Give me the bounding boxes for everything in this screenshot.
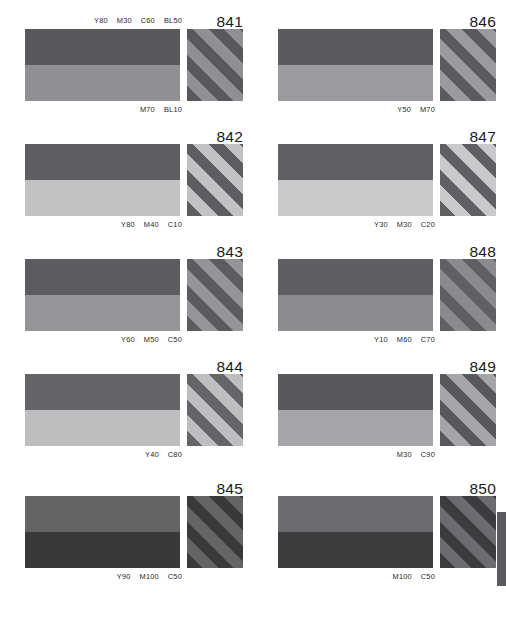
spec-token: BL10 bbox=[164, 105, 182, 114]
swatch-spec-bottom: Y30M30C20 bbox=[253, 220, 435, 229]
color-swatch-843: 843Y60M50C50 bbox=[0, 243, 253, 358]
spec-token: Y10 bbox=[374, 335, 388, 344]
spec-token: Y80 bbox=[94, 16, 108, 25]
swatch-number-label: 842 bbox=[217, 128, 243, 145]
spec-token: M50 bbox=[144, 335, 159, 344]
spec-token: C20 bbox=[421, 220, 435, 229]
spec-token: M100 bbox=[140, 572, 159, 581]
swatch-band-top bbox=[278, 29, 433, 65]
spec-token: Y60 bbox=[121, 335, 135, 344]
spec-token: Y40 bbox=[145, 450, 159, 459]
swatch-spec-bottom: M70BL10 bbox=[0, 105, 182, 114]
swatch-stripe-patch bbox=[440, 374, 496, 446]
swatch-stripe-patch bbox=[440, 496, 496, 568]
color-swatch-841: 841Y80M30C60BL50M70BL10 bbox=[0, 13, 253, 128]
swatch-band-bottom bbox=[278, 410, 433, 446]
swatch-band-top bbox=[25, 144, 180, 180]
swatch-stripe-patch bbox=[187, 144, 243, 216]
swatch-number-label: 841 bbox=[217, 13, 243, 30]
spec-token: BL50 bbox=[164, 16, 182, 25]
swatch-spec-bottom: Y80M40C10 bbox=[0, 220, 182, 229]
swatch-band-bottom bbox=[25, 532, 180, 568]
swatch-band-bottom bbox=[25, 295, 180, 331]
swatch-color-block bbox=[25, 259, 180, 331]
swatch-number-label: 846 bbox=[470, 13, 496, 30]
swatch-color-block bbox=[25, 374, 180, 446]
swatch-band-top bbox=[25, 29, 180, 65]
swatch-band-top bbox=[25, 496, 180, 532]
swatch-band-top bbox=[278, 259, 433, 295]
swatch-band-top bbox=[278, 496, 433, 532]
spec-token: C70 bbox=[421, 335, 435, 344]
color-swatch-845: 845Y90M100C50 bbox=[0, 480, 253, 595]
swatch-band-bottom bbox=[278, 295, 433, 331]
spec-token: C80 bbox=[168, 450, 182, 459]
spec-token: C90 bbox=[421, 450, 435, 459]
swatch-spec-bottom: M100C50 bbox=[253, 572, 435, 581]
spec-token: M30 bbox=[397, 450, 412, 459]
swatch-band-bottom bbox=[25, 65, 180, 101]
swatch-band-top bbox=[25, 374, 180, 410]
swatch-number-label: 845 bbox=[217, 480, 243, 497]
spec-token: Y90 bbox=[117, 572, 131, 581]
spec-token: C50 bbox=[421, 572, 435, 581]
swatch-stripe-patch bbox=[440, 144, 496, 216]
swatch-color-block bbox=[278, 144, 433, 216]
swatch-stripe-patch bbox=[440, 259, 496, 331]
swatch-color-block bbox=[25, 29, 180, 101]
spec-token: Y50 bbox=[397, 105, 411, 114]
color-swatch-846: 846Y50M70 bbox=[253, 13, 506, 128]
swatch-spec-bottom: Y60M50C50 bbox=[0, 335, 182, 344]
swatch-band-bottom bbox=[25, 410, 180, 446]
swatch-color-block bbox=[278, 496, 433, 568]
swatch-band-top bbox=[25, 259, 180, 295]
color-swatch-842: 842Y80M40C10 bbox=[0, 128, 253, 243]
swatch-spec-bottom: M30C90 bbox=[253, 450, 435, 459]
spec-token: M30 bbox=[117, 16, 132, 25]
swatch-band-top bbox=[278, 144, 433, 180]
swatch-number-label: 850 bbox=[470, 480, 496, 497]
color-swatch-847: 847Y30M30C20 bbox=[253, 128, 506, 243]
spec-token: Y80 bbox=[121, 220, 135, 229]
clipped-edge-swatch bbox=[497, 512, 506, 586]
swatch-stripe-patch bbox=[187, 496, 243, 568]
swatch-stripe-patch bbox=[440, 29, 496, 101]
swatch-color-block bbox=[278, 259, 433, 331]
swatch-band-bottom bbox=[25, 180, 180, 216]
spec-token: Y30 bbox=[374, 220, 388, 229]
swatch-stripe-patch bbox=[187, 259, 243, 331]
spec-token: C10 bbox=[168, 220, 182, 229]
color-swatch-850: 850M100C50 bbox=[253, 480, 506, 595]
color-swatch-844: 844Y40C80 bbox=[0, 358, 253, 473]
swatch-spec-bottom: Y90M100C50 bbox=[0, 572, 182, 581]
spec-token: C50 bbox=[168, 572, 182, 581]
swatch-spec-bottom: Y40C80 bbox=[0, 450, 182, 459]
spec-token: M30 bbox=[397, 220, 412, 229]
spec-token: M60 bbox=[397, 335, 412, 344]
spec-token: M70 bbox=[420, 105, 435, 114]
spec-token: M100 bbox=[393, 572, 412, 581]
swatch-spec-top: Y80M30C60BL50 bbox=[0, 16, 182, 25]
swatch-stripe-patch bbox=[187, 374, 243, 446]
spec-token: C60 bbox=[141, 16, 155, 25]
swatch-color-block bbox=[25, 496, 180, 568]
swatch-stripe-patch bbox=[187, 29, 243, 101]
swatch-number-label: 849 bbox=[470, 358, 496, 375]
swatch-band-top bbox=[278, 374, 433, 410]
swatch-color-block bbox=[25, 144, 180, 216]
swatch-number-label: 848 bbox=[470, 243, 496, 260]
swatch-number-label: 843 bbox=[217, 243, 243, 260]
color-swatch-849: 849M30C90 bbox=[253, 358, 506, 473]
color-swatch-848: 848Y10M60C70 bbox=[253, 243, 506, 358]
swatch-band-bottom bbox=[278, 180, 433, 216]
spec-token: M40 bbox=[144, 220, 159, 229]
swatch-band-bottom bbox=[278, 532, 433, 568]
color-reference-sheet: 841Y80M30C60BL50M70BL10842Y80M40C10843Y6… bbox=[0, 0, 506, 622]
swatch-color-block bbox=[278, 29, 433, 101]
swatch-number-label: 844 bbox=[217, 358, 243, 375]
swatch-number-label: 847 bbox=[470, 128, 496, 145]
swatch-spec-bottom: Y10M60C70 bbox=[253, 335, 435, 344]
swatch-color-block bbox=[278, 374, 433, 446]
swatch-band-bottom bbox=[278, 65, 433, 101]
spec-token: M70 bbox=[140, 105, 155, 114]
